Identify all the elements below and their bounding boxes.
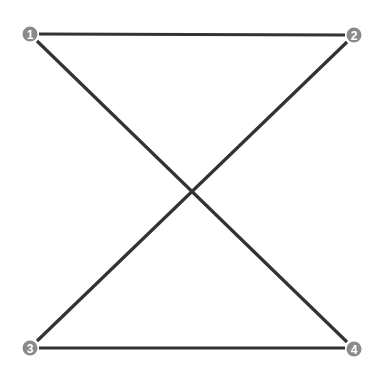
edges <box>37 34 347 348</box>
edge-1-2 <box>39 34 345 35</box>
node-3: 3 <box>23 341 38 356</box>
node-1: 1 <box>23 27 38 42</box>
diagram-canvas: 1 2 3 4 <box>0 0 388 382</box>
node-4-label: 4 <box>351 343 358 357</box>
node-2: 2 <box>347 28 362 43</box>
node-3-label: 3 <box>27 342 34 356</box>
node-1-label: 1 <box>27 28 34 42</box>
node-4: 4 <box>347 342 362 357</box>
node-2-label: 2 <box>351 29 358 43</box>
